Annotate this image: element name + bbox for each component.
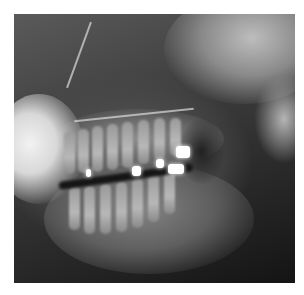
- tooth: [64, 132, 75, 174]
- tooth: [154, 118, 165, 160]
- tooth: [138, 120, 149, 164]
- metal-filling: [156, 159, 164, 168]
- tooth: [132, 178, 143, 228]
- metal-filling: [86, 169, 91, 177]
- dental-xray-image: [14, 14, 295, 283]
- tooth: [122, 122, 133, 168]
- tooth: [107, 124, 118, 170]
- tooth: [78, 129, 89, 173]
- tooth: [116, 182, 127, 232]
- tooth: [164, 170, 175, 214]
- tooth: [100, 184, 111, 234]
- metal-filling: [176, 146, 190, 158]
- tooth: [148, 174, 159, 222]
- tooth: [92, 126, 103, 172]
- metal-filling: [168, 164, 184, 174]
- tooth: [84, 186, 95, 234]
- metal-filling: [132, 166, 141, 176]
- tooth: [69, 186, 80, 230]
